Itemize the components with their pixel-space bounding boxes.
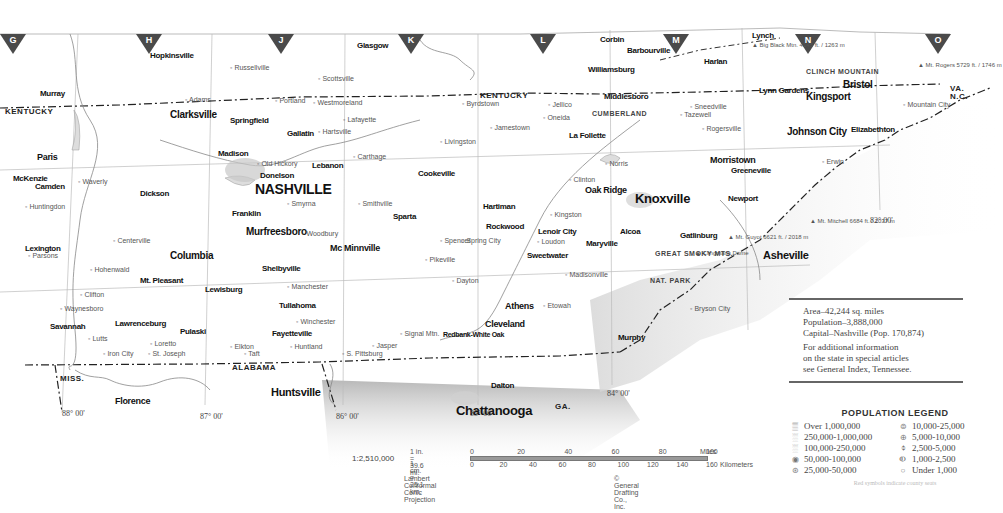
place-label[interactable]: ◦ Carthage bbox=[353, 153, 386, 160]
city-label[interactable]: Oak Ridge bbox=[585, 186, 627, 195]
city-label[interactable]: Knoxville bbox=[635, 192, 690, 205]
place-label[interactable]: ◦ Clifton bbox=[80, 291, 104, 298]
place-label[interactable]: ◦ Russellville bbox=[230, 64, 269, 71]
city-label[interactable]: NASHVILLE bbox=[255, 182, 332, 196]
city-label[interactable]: Paris bbox=[37, 153, 58, 162]
city-label[interactable]: Maryville bbox=[586, 240, 618, 248]
city-label[interactable]: Murphy bbox=[618, 334, 645, 342]
place-label[interactable]: ◦ Elkton bbox=[230, 343, 254, 350]
city-label[interactable]: Dickson bbox=[140, 190, 169, 198]
place-label[interactable]: ◦ Waynesboro bbox=[60, 305, 103, 312]
city-label[interactable]: Mc Minnville bbox=[330, 244, 380, 253]
city-label[interactable]: Lawrenceburg bbox=[115, 320, 166, 328]
city-label[interactable]: Lynch bbox=[752, 32, 774, 40]
city-label[interactable]: Florence bbox=[115, 397, 150, 406]
city-label[interactable]: Johnson City bbox=[787, 127, 847, 137]
city-label[interactable]: Alcoa bbox=[620, 228, 640, 236]
city-label[interactable]: Gatlinburg bbox=[680, 232, 717, 240]
city-label[interactable]: Huntsville bbox=[271, 387, 321, 398]
city-label[interactable]: Rockwood bbox=[486, 223, 524, 231]
city-label[interactable]: Pulaski bbox=[180, 328, 206, 336]
city-label[interactable]: Murray bbox=[40, 90, 65, 98]
place-label[interactable]: ◦ Norris bbox=[605, 160, 628, 167]
place-label[interactable]: ◦ Lutts bbox=[88, 335, 108, 342]
place-label[interactable]: ◦ St. Joseph bbox=[148, 350, 186, 357]
place-label[interactable]: ◦ Signal Mtn. bbox=[400, 330, 439, 337]
place-label[interactable]: ◦ Jamestown bbox=[490, 124, 530, 131]
city-label[interactable]: Lebanon bbox=[312, 162, 343, 170]
place-label[interactable]: ◦ Smyrna bbox=[287, 200, 316, 207]
city-label[interactable]: Lewisburg bbox=[205, 286, 242, 294]
place-label[interactable]: ◦ Waverly bbox=[78, 178, 107, 185]
city-label[interactable]: Madison bbox=[218, 150, 248, 158]
place-label[interactable]: ◦ S. Pittsburg bbox=[342, 350, 383, 357]
place-label[interactable]: ◦ Kingston bbox=[550, 211, 582, 218]
city-label[interactable]: Mt. Pleasant bbox=[140, 277, 183, 285]
city-label[interactable]: Murfreesboro bbox=[246, 227, 307, 237]
city-label[interactable]: Greeneville bbox=[731, 167, 771, 175]
place-label[interactable]: ◦ Old Hickory bbox=[257, 160, 298, 167]
city-label[interactable]: Fayetteville bbox=[272, 330, 312, 338]
place-label[interactable]: ◦ Dayton bbox=[452, 277, 479, 284]
city-label[interactable]: Asheville bbox=[763, 250, 809, 261]
place-label[interactable]: ◦ Parsons bbox=[28, 252, 58, 259]
place-label[interactable]: ◦ Westmoreland bbox=[313, 99, 362, 106]
city-label[interactable]: Athens bbox=[505, 302, 534, 311]
city-label[interactable]: Clarksville bbox=[170, 110, 217, 120]
city-label[interactable]: Camden bbox=[35, 183, 65, 191]
city-label[interactable]: Sweetwater bbox=[527, 252, 568, 260]
place-label[interactable]: ◦ Spring City bbox=[462, 237, 501, 244]
city-label[interactable]: Newport bbox=[728, 195, 758, 203]
place-label[interactable]: ◦ Oneida bbox=[543, 114, 570, 121]
place-label[interactable]: ◦ Jasper bbox=[372, 342, 397, 349]
place-label[interactable]: ◦ Scottsville bbox=[318, 75, 354, 82]
place-label[interactable]: ◦ Centerville bbox=[113, 237, 151, 244]
city-label[interactable]: Tullahoma bbox=[279, 302, 316, 310]
place-label[interactable]: ◦ Clinton bbox=[569, 176, 595, 183]
place-label[interactable]: ◦ Loudon bbox=[537, 238, 565, 245]
city-label[interactable]: La Follette bbox=[569, 132, 606, 140]
city-label[interactable]: Columbia bbox=[170, 251, 213, 261]
city-label[interactable]: Savannah bbox=[50, 323, 85, 331]
place-label[interactable]: ◦ Pikeville bbox=[425, 256, 455, 263]
city-label[interactable]: Corbin bbox=[600, 36, 624, 44]
place-label[interactable]: ◦ Iron City bbox=[103, 350, 134, 357]
place-label[interactable]: ◦ Winchester bbox=[296, 318, 335, 325]
city-label[interactable]: Hopkinsville bbox=[150, 52, 194, 60]
city-label[interactable]: Glasgow bbox=[357, 42, 388, 50]
place-label[interactable]: ◦ Portland bbox=[275, 97, 306, 104]
city-label[interactable]: Lenoir City bbox=[538, 228, 576, 236]
city-label[interactable]: Williamsburg bbox=[588, 66, 635, 74]
place-label[interactable]: ◦ Lafayette bbox=[343, 116, 376, 123]
city-label[interactable]: Cleveland bbox=[485, 320, 525, 329]
city-label[interactable]: Shelbyville bbox=[262, 265, 301, 273]
city-label[interactable]: Lynn Gardens bbox=[759, 87, 809, 95]
place-label[interactable]: ◦ Hartsville bbox=[318, 128, 351, 135]
city-label[interactable]: Cookeville bbox=[418, 170, 455, 178]
place-label[interactable]: ◦ Huntland bbox=[290, 343, 322, 350]
city-label[interactable]: Kingsport bbox=[806, 92, 851, 102]
place-label[interactable]: ◦ Huntingdon bbox=[25, 203, 65, 210]
place-label[interactable]: ◦ Manchester bbox=[287, 283, 328, 290]
place-label[interactable]: ◦ Smithville bbox=[358, 200, 392, 207]
place-label[interactable]: ◦ Livingston bbox=[440, 138, 476, 145]
city-label[interactable]: Harlan bbox=[704, 58, 727, 66]
city-label[interactable]: Sparta bbox=[393, 213, 416, 221]
city-label[interactable]: Franklin bbox=[232, 210, 261, 218]
city-label[interactable]: Donelson bbox=[260, 172, 294, 180]
city-label[interactable]: Redbank-White Oak bbox=[443, 331, 504, 338]
city-label[interactable]: Middlesboro bbox=[604, 93, 648, 101]
place-label[interactable]: ◦ Rogersville bbox=[702, 125, 741, 132]
place-label[interactable]: ◦ Etowah bbox=[543, 302, 571, 309]
place-label[interactable]: ◦ Jellico bbox=[548, 101, 572, 108]
place-label[interactable]: ◦ Adams bbox=[185, 96, 211, 103]
city-label[interactable]: Dalton bbox=[491, 382, 514, 390]
city-label[interactable]: Bristol bbox=[843, 80, 873, 90]
city-label[interactable]: Elizabethton bbox=[851, 126, 895, 134]
place-label[interactable]: ◦ Mountain City bbox=[903, 101, 950, 108]
city-label[interactable]: Morristown bbox=[710, 156, 756, 165]
city-label[interactable]: Chattanooga bbox=[456, 404, 532, 417]
place-label[interactable]: ◦ Hohenwald bbox=[90, 266, 129, 273]
city-label[interactable]: Gallatin bbox=[287, 130, 314, 138]
place-label[interactable]: ◦ Tazewell bbox=[680, 111, 711, 118]
